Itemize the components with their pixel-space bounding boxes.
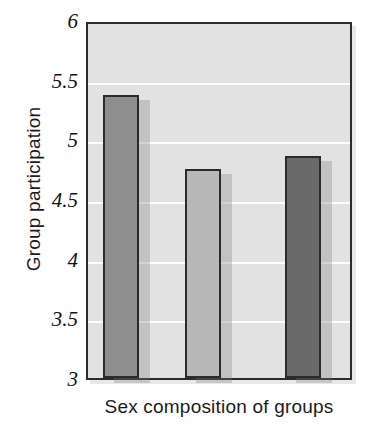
plot-area bbox=[86, 22, 352, 380]
bar bbox=[103, 95, 139, 378]
y-axis-tick-label: 5.5 bbox=[18, 69, 78, 94]
bar-chart: Group participation 33.544.555.56 Sex co… bbox=[0, 0, 369, 428]
gridline bbox=[88, 83, 350, 85]
y-axis-tick-label: 3.5 bbox=[18, 307, 78, 332]
y-axis-tick-label: 6 bbox=[18, 9, 78, 34]
bar bbox=[285, 156, 321, 378]
bar bbox=[185, 169, 221, 378]
x-axis-title: Sex composition of groups bbox=[86, 396, 352, 418]
y-axis-tick-label: 3 bbox=[18, 367, 78, 392]
y-axis-tick-label: 4.5 bbox=[18, 188, 78, 213]
y-axis-tick-label: 4 bbox=[18, 248, 78, 273]
y-axis-tick-label: 5 bbox=[18, 128, 78, 153]
